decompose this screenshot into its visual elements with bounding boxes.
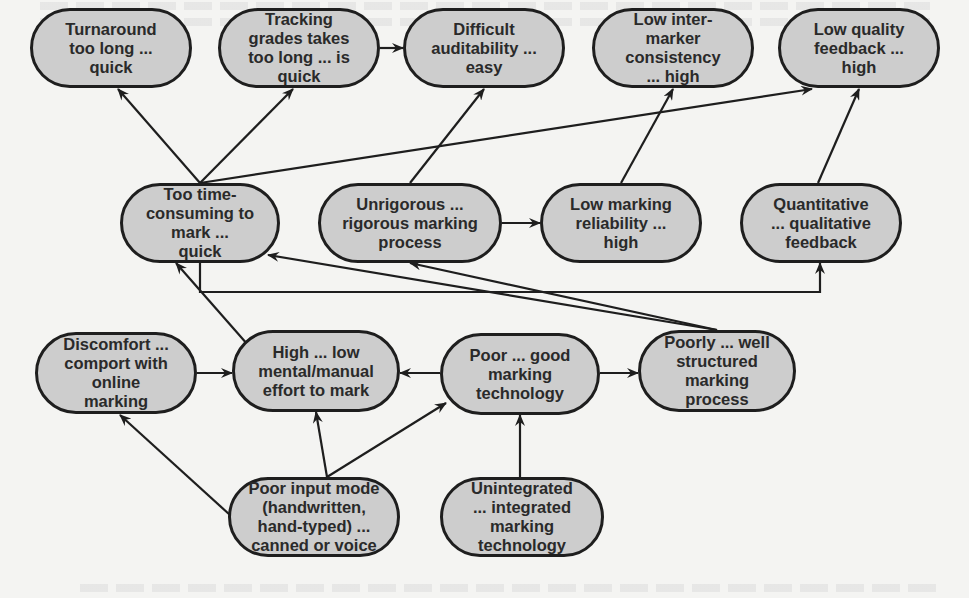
node-timeconsuming: Too time- consuming to mark ... quick (120, 183, 280, 263)
edge-inputmode-to-technology (327, 403, 446, 477)
edge-timeconsuming-to-turnaround (118, 89, 200, 183)
node-tracking: Tracking grades takes too long ... is qu… (218, 8, 380, 88)
node-reliability: Low marking reliability ... high (540, 183, 702, 263)
edge-timeconsuming-to-quantitative (200, 263, 820, 292)
edge-quantitative-to-quality (818, 89, 859, 183)
edge-effort-to-timeconsuming (176, 263, 248, 345)
node-technology: Poor ... good marking technology (440, 333, 600, 415)
node-inputmode: Poor input mode (handwritten, hand-typed… (228, 477, 400, 557)
node-auditability: Difficult auditability ... easy (403, 8, 565, 88)
node-unrigorous: Unrigorous ... rigorous marking process (318, 183, 502, 263)
edge-inputmode-to-effort (316, 412, 327, 477)
node-structured: Poorly ... well structured marking proce… (638, 330, 796, 412)
node-consistency: Low inter- marker consistency ... high (592, 8, 754, 88)
node-quantitative: Quantitative ... qualitative feedback (740, 183, 902, 263)
edge-reliability-to-consistency (621, 89, 673, 183)
edge-structured-to-unrigorous (410, 263, 717, 330)
edge-timeconsuming-to-quality (200, 89, 812, 183)
edge-unrigorous-to-auditability (410, 89, 484, 183)
edge-timeconsuming-to-tracking (200, 89, 293, 183)
node-turnaround: Turnaround too long ... quick (30, 8, 192, 88)
node-effort: High ... low mental/manual effort to mar… (232, 330, 400, 412)
node-quality: Low quality feedback ... high (778, 8, 940, 88)
node-unintegrated: Unintegrated ... integrated marking tech… (440, 477, 604, 557)
edge-inputmode-to-discomfort (120, 415, 230, 515)
node-discomfort: Discomfort ... comport with online marki… (35, 332, 197, 414)
